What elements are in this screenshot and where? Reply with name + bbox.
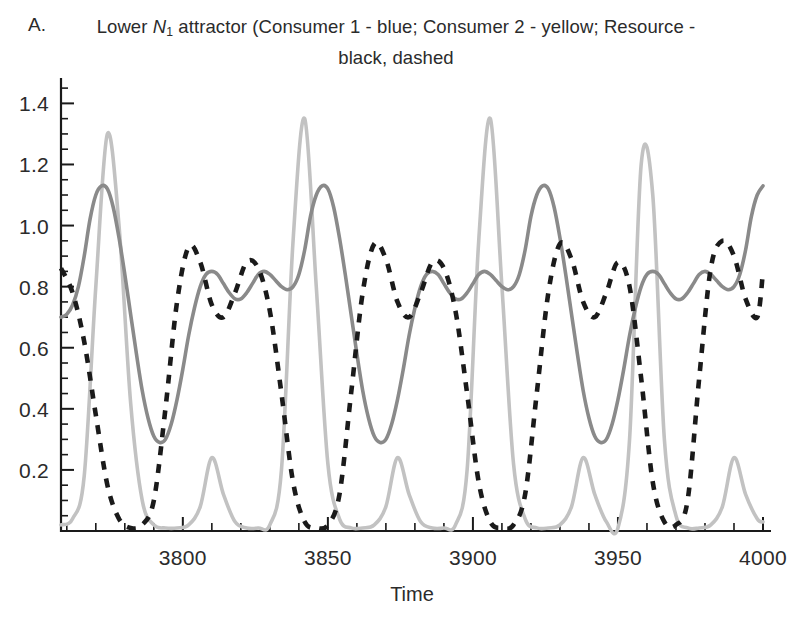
- y-tick-label: 1.4: [19, 92, 49, 115]
- x-tick-label: 4000: [739, 546, 787, 569]
- x-tick-label: 3800: [159, 546, 207, 569]
- y-tick-label: 1.0: [19, 215, 49, 238]
- y-tick-label: 0.8: [19, 276, 49, 299]
- x-tick-label: 3850: [304, 546, 352, 569]
- y-tick-label: 0.6: [19, 337, 49, 360]
- y-tick-label: 1.2: [19, 153, 49, 176]
- figure-panel-a: A. Lower N1 attractor (Consumer 1 - blue…: [0, 0, 788, 625]
- plot-area: 0.20.40.60.81.01.21.43800385039003950400…: [0, 0, 788, 625]
- line-chart: 0.20.40.60.81.01.21.43800385039003950400…: [0, 0, 788, 625]
- y-tick-label: 0.2: [19, 459, 49, 482]
- x-tick-label: 3900: [449, 546, 497, 569]
- y-tick-label: 0.4: [19, 398, 49, 421]
- x-tick-label: 3950: [594, 546, 642, 569]
- x-axis-title: Time: [390, 583, 434, 605]
